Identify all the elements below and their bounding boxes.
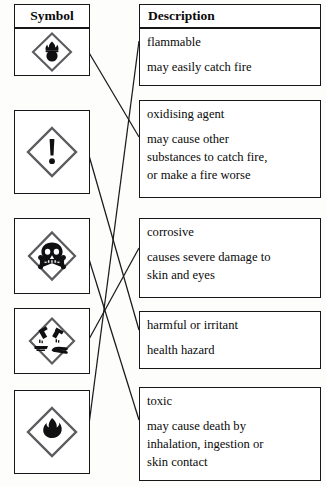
description-2-line-2: substances to catch fire, xyxy=(147,149,313,167)
symbol-cell-3[interactable] xyxy=(14,218,90,294)
description-4-line-1: health hazard xyxy=(147,342,313,360)
description-3-line-1: causes severe damage to xyxy=(147,249,313,267)
connector-symbol3-to-description5 xyxy=(88,256,139,420)
description-4-heading: harmful or irritant xyxy=(147,317,313,335)
connector-symbol5-to-description1 xyxy=(88,41,139,432)
description-cell-5[interactable]: toxic may cause death by inhalation, ing… xyxy=(139,387,321,481)
worksheet-page: Symbol Description xyxy=(0,0,326,487)
exclamation-mark-icon xyxy=(25,125,79,179)
skull-and-crossbones-icon xyxy=(25,230,79,282)
connector-symbol1-to-description2 xyxy=(88,51,139,137)
description-2-line-3: or make a fire worse xyxy=(147,167,313,185)
symbol-cell-1[interactable] xyxy=(14,28,90,76)
spacer xyxy=(147,242,313,249)
flame-icon xyxy=(25,405,79,459)
description-cell-3[interactable]: corrosive causes severe damage to skin a… xyxy=(139,218,321,298)
description-5-line-3: skin contact xyxy=(147,454,313,472)
description-cell-2[interactable]: oxidising agent may cause other substanc… xyxy=(139,100,321,198)
description-column-header-label: Description xyxy=(148,9,215,23)
description-3-heading: corrosive xyxy=(147,224,313,242)
spacer xyxy=(147,52,313,59)
description-5-line-2: inhalation, ingestion or xyxy=(147,436,313,454)
description-2-line-1: may cause other xyxy=(147,131,313,149)
symbol-column-header: Symbol xyxy=(14,4,90,28)
symbol-cell-2[interactable] xyxy=(14,110,90,194)
connector-symbol4-to-description3 xyxy=(88,248,139,341)
symbol-column-header-label: Symbol xyxy=(30,9,74,23)
description-3-line-2: skin and eyes xyxy=(147,267,313,285)
spacer xyxy=(147,335,313,342)
spacer xyxy=(147,411,313,418)
description-column-header: Description xyxy=(139,4,321,28)
spacer xyxy=(147,124,313,131)
description-cell-4[interactable]: harmful or irritant health hazard xyxy=(139,311,321,369)
description-1-line-1: may easily catch fire xyxy=(147,59,313,77)
description-2-heading: oxidising agent xyxy=(147,106,313,124)
corrosive-icon xyxy=(26,316,78,366)
oxidising-flame-over-circle-icon xyxy=(29,30,75,74)
description-5-line-1: may cause death by xyxy=(147,418,313,436)
description-cell-1[interactable]: flammable may easily catch fire xyxy=(139,28,321,86)
symbol-cell-4[interactable] xyxy=(14,308,90,374)
symbol-cell-5[interactable] xyxy=(14,390,90,474)
description-5-heading: toxic xyxy=(147,393,313,411)
description-1-heading: flammable xyxy=(147,34,313,52)
